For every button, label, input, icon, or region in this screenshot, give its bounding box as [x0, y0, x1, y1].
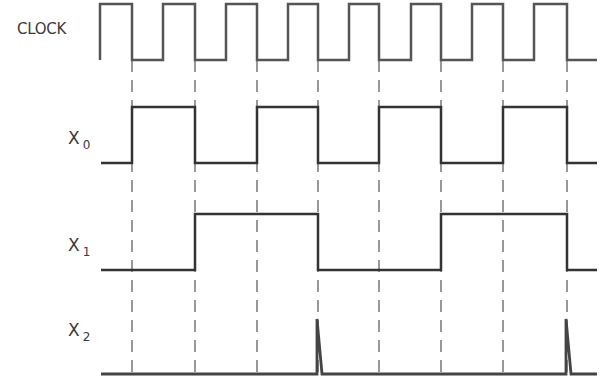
x2-label: X2 — [68, 320, 90, 340]
clock-label: CLOCK — [17, 20, 66, 38]
clock-waveform — [100, 4, 597, 60]
x0-label-main: X — [68, 128, 80, 148]
x2-label-main: X — [68, 320, 80, 340]
x1-label-subscript: 1 — [83, 245, 91, 259]
x2-label-subscript: 2 — [83, 330, 91, 344]
x1-waveform — [101, 214, 597, 270]
x0-label-subscript: 0 — [83, 138, 91, 152]
x1-label: X1 — [68, 235, 90, 255]
timing-diagram: CLOCK X0 X1 X2 — [0, 0, 601, 380]
x1-label-main: X — [68, 235, 80, 255]
x0-label: X0 — [68, 128, 90, 148]
x2-waveform — [101, 319, 597, 374]
x0-waveform — [101, 107, 597, 163]
